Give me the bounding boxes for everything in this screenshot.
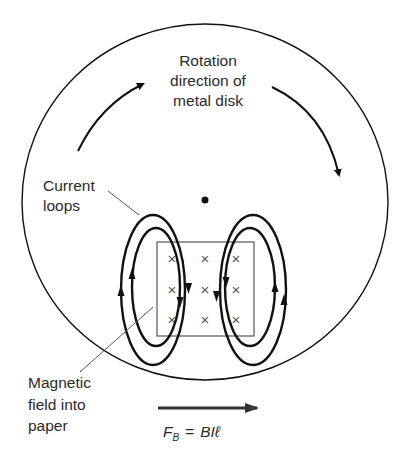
axle-dot — [202, 197, 209, 204]
rotation-arrow-right-icon — [272, 87, 339, 175]
current-loops-leader-line — [108, 191, 139, 215]
field-x-icon: × — [232, 281, 241, 298]
left-current-loops — [118, 215, 193, 365]
arrow-up-icon — [118, 285, 125, 296]
field-x-icon: × — [232, 250, 241, 267]
field-x-icon: × — [168, 281, 177, 298]
force-subscript: B — [172, 432, 179, 443]
magnetic-field-label-line2: field into — [28, 396, 86, 413]
current-loops-label-line2: loops — [43, 197, 80, 214]
rotation-label-line2: direction of — [170, 72, 247, 89]
magnetic-field-label-line3: paper — [28, 417, 68, 434]
force-rhs: BIℓ — [200, 423, 221, 440]
arrow-up-icon — [272, 281, 279, 292]
rotation-label-line1: Rotation — [179, 52, 237, 69]
rotation-arrow-left-icon — [78, 84, 143, 151]
force-equation: FB=BIℓ — [163, 423, 221, 443]
current-loops-label-line1: Current — [43, 177, 95, 194]
arrow-up-icon — [129, 268, 136, 279]
field-x-icon: × — [201, 311, 210, 328]
force-equals: = — [185, 423, 194, 440]
rotation-label-line3: metal disk — [173, 92, 243, 109]
field-x-icon: × — [201, 281, 210, 298]
magnetic-field-label-line1: Magnetic — [28, 374, 91, 391]
eddy-current-diagram: Rotation direction of metal disk Current… — [0, 0, 395, 463]
field-x-icon: × — [201, 250, 210, 267]
field-x-icon: × — [232, 311, 241, 328]
arrow-down-icon — [223, 277, 230, 288]
right-current-loops — [213, 215, 288, 365]
